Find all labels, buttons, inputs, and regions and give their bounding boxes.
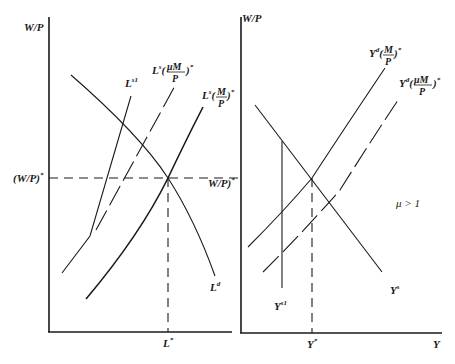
svg-text:μM: μM: [413, 74, 430, 85]
svg-text:P: P: [172, 73, 179, 84]
labor-supply-mu-label: Ls( μM P )*: [151, 61, 194, 84]
output-supply-s1-label: Ys1: [274, 299, 287, 312]
svg-text:)*: )*: [393, 46, 402, 60]
left-y-tick-label: (W/P)*: [13, 171, 44, 185]
svg-text:)*: )*: [226, 88, 235, 102]
svg-text:Yd(: Yd(: [399, 76, 414, 90]
output-demand-mu-label: Yd( μM P )*: [399, 74, 441, 97]
is-lm-labor-output-diagram: W/P (W/P)* L* Ls1 Ls( μM P )* Ls( M P )*: [0, 0, 455, 364]
labor-supply-curve-mu: [96, 84, 176, 230]
svg-text:)*: )*: [185, 63, 194, 77]
labor-supply-curve-s1: [62, 96, 131, 273]
labor-demand-label: Ld: [209, 280, 221, 293]
right-y-tick-label: W/P)*: [208, 176, 235, 190]
svg-text:Ls(: Ls(: [201, 88, 216, 102]
left-y-axis-label: W/P: [24, 21, 44, 33]
left-x-tick-label: L*: [162, 336, 174, 349]
mu-annotation: μ > 1: [395, 197, 420, 209]
svg-text:M: M: [383, 44, 394, 55]
labor-demand-curve: [71, 75, 215, 276]
output-supply-label: Ys: [390, 283, 400, 296]
svg-text:Ls(: Ls(: [151, 63, 166, 77]
svg-text:)*: )*: [432, 76, 441, 90]
left-panel-labor-market: W/P (W/P)* L* Ls1 Ls( μM P )* Ls( M P )*: [13, 17, 240, 349]
right-panel-output-market: W/P W/P)* Y* Y μ > 1 Yd( M P )* Yd( μM P…: [208, 12, 442, 350]
right-x-axis-label: Y: [433, 338, 441, 350]
svg-text:P: P: [419, 86, 426, 97]
svg-text:P: P: [385, 56, 392, 67]
labor-supply-label: Ls( M P )*: [201, 86, 235, 109]
labor-supply-s1-label: Ls1: [124, 76, 138, 89]
svg-text:Yd(: Yd(: [369, 46, 384, 60]
output-supply-curve: [255, 105, 382, 272]
output-demand-curve: [248, 68, 385, 247]
output-demand-curve-mu: [263, 97, 400, 272]
svg-text:μM: μM: [166, 61, 183, 72]
svg-text:P: P: [218, 98, 225, 109]
right-y-axis-label: W/P: [242, 12, 262, 24]
output-demand-label: Yd( M P )*: [369, 44, 402, 67]
labor-supply-curve: [86, 107, 203, 299]
right-x-tick-label: Y*: [307, 337, 318, 350]
svg-text:M: M: [216, 86, 227, 97]
